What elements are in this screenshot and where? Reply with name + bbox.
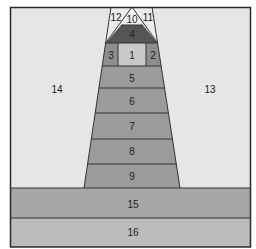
label-11: 11 [143, 12, 154, 23]
label-5: 5 [129, 73, 135, 84]
region-diagram: 12 10 11 4 3 1 2 5 6 7 8 9 14 13 15 16 [0, 0, 256, 249]
label-9: 9 [129, 171, 135, 182]
label-7: 7 [129, 121, 135, 132]
label-8: 8 [129, 146, 135, 157]
label-6: 6 [129, 96, 135, 107]
label-12: 12 [110, 12, 122, 23]
label-16: 16 [127, 227, 139, 238]
label-10: 10 [126, 14, 138, 25]
label-13: 13 [204, 84, 216, 95]
label-15: 15 [127, 199, 139, 210]
label-4: 4 [129, 29, 135, 40]
label-14: 14 [51, 84, 63, 95]
label-1: 1 [129, 50, 135, 61]
label-2: 2 [150, 50, 156, 61]
label-3: 3 [108, 50, 114, 61]
